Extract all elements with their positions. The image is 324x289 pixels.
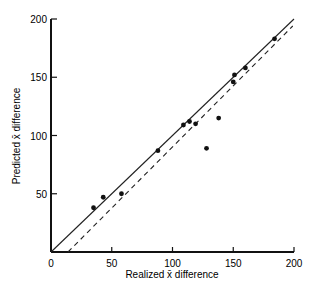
data-point — [216, 116, 221, 121]
data-point — [243, 66, 248, 71]
y-axis-label: Predicted x̄ difference — [11, 87, 22, 184]
data-point — [232, 73, 237, 78]
x-tick-label: 200 — [286, 258, 303, 269]
x-axis-label: Realized x̄ difference — [125, 269, 219, 280]
x-tick-label: 50 — [106, 258, 118, 269]
y-tick-label: 100 — [30, 131, 47, 142]
x-tick-label: 100 — [164, 258, 181, 269]
data-point — [181, 123, 186, 128]
data-point — [187, 119, 192, 124]
data-point — [119, 191, 124, 196]
data-point — [156, 148, 161, 153]
x-tick-label: 0 — [48, 258, 54, 269]
y-tick-label: 50 — [36, 189, 48, 200]
data-point — [91, 205, 96, 210]
data-point — [231, 80, 236, 85]
scatter-chart: 05010015020050100150200 Realized x̄ diff… — [0, 0, 324, 289]
y-tick-label: 150 — [30, 72, 47, 83]
data-point — [272, 36, 277, 41]
x-tick-label: 150 — [225, 258, 242, 269]
reference-lines — [51, 19, 294, 252]
dashed-fit-line — [68, 26, 293, 252]
identity-line — [51, 19, 294, 252]
data-point — [101, 195, 106, 200]
y-tick-label: 200 — [30, 14, 47, 25]
data-point — [193, 121, 198, 126]
data-point — [204, 146, 209, 151]
